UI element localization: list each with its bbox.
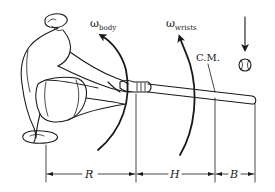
center-of-mass-label: C.M. xyxy=(196,52,220,63)
cm-leader-line xyxy=(208,64,215,92)
batter-foot xyxy=(23,131,58,144)
dimension-R: R xyxy=(47,168,135,181)
dimension-B: B xyxy=(216,168,254,181)
baseball-icon xyxy=(239,59,251,71)
dimension-R-label: R xyxy=(84,168,93,181)
batter-head xyxy=(45,14,67,28)
batter-figure xyxy=(21,14,151,143)
batter-swing-diagram: ωbody ωwrists C.M. R H B xyxy=(0,0,275,192)
batter-torso xyxy=(21,28,58,142)
dimension-H: H xyxy=(137,168,214,181)
omega-wrists-label: ωwrists xyxy=(166,17,197,32)
bat xyxy=(148,84,256,104)
dimension-H-label: H xyxy=(169,168,180,181)
omega-body-label: ωbody xyxy=(90,17,116,32)
omega-body-arrow xyxy=(98,36,128,150)
ball-group xyxy=(239,17,251,71)
dimension-B-label: B xyxy=(229,168,238,181)
